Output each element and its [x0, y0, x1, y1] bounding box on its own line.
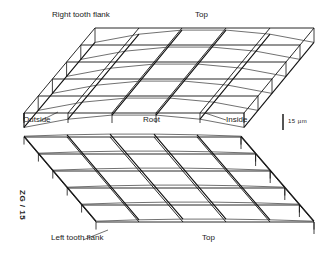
root-label: Root: [143, 115, 160, 124]
inside-label: Inside: [226, 115, 247, 124]
lead-curve: [112, 30, 182, 115]
scale-label: 15 µm: [288, 118, 307, 124]
tooth-flank-diagram: Right tooth flank Top Outside Root Insid…: [0, 0, 333, 258]
lead-curve: [197, 135, 270, 220]
right-flank-label: Right tooth flank: [52, 10, 110, 19]
lead-curve: [110, 134, 183, 219]
figure-id-label: ZG / 15: [18, 190, 27, 220]
lead-curve: [67, 135, 139, 220]
frame-col-line: [200, 28, 270, 113]
profile-curve: [53, 168, 270, 170]
frame-col-line: [154, 137, 226, 222]
profile-curve: [24, 134, 241, 136]
left-flank-label: Left tooth flank: [51, 233, 103, 242]
profile-curve: [82, 202, 300, 204]
top-lower-label: Top: [202, 233, 215, 242]
profile-curve: [96, 219, 314, 221]
profile-curve: [67, 64, 286, 76]
lead-curve: [24, 136, 96, 221]
top-upper-label: Top: [195, 10, 208, 19]
profile-curve: [67, 185, 285, 187]
outside-label: Outside: [23, 115, 51, 124]
profile-curve: [95, 30, 314, 42]
inside-leader: [205, 113, 226, 120]
profile-curve: [24, 115, 244, 127]
frame-col-line: [112, 28, 182, 113]
frame-col-line: [67, 137, 139, 222]
lead-curve: [241, 136, 314, 221]
profile-curve: [81, 47, 300, 59]
frame-col-line: [110, 137, 183, 222]
frame-col-line: [197, 137, 270, 222]
profile-curve: [38, 151, 255, 153]
lead-curve: [154, 134, 226, 219]
scale-bar: [282, 114, 284, 130]
